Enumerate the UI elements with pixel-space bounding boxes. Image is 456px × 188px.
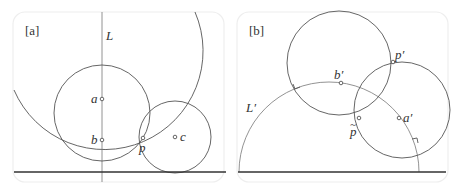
label-a: a — [91, 91, 98, 106]
point-a-prime — [397, 116, 401, 120]
label-b-prime: b′ — [334, 67, 344, 82]
panel-b-frame — [237, 12, 448, 182]
label-b: b — [91, 132, 98, 147]
panel-a-frame — [13, 12, 224, 182]
label-p-prime: p′ — [394, 47, 405, 62]
point-b — [100, 138, 104, 142]
point-c — [173, 135, 177, 139]
circle-a-prime — [354, 62, 450, 158]
semicircle-L-prime — [239, 82, 419, 172]
tilde-mark: ~ — [350, 118, 356, 130]
label-a-prime: a′ — [403, 110, 413, 125]
circle-b-prime — [287, 11, 391, 115]
panel-b-tag: [b] — [249, 23, 264, 38]
panel-b: [b] L′ b′ a′ p′ p ~ — [237, 11, 450, 182]
label-p: p — [138, 140, 146, 155]
panel-a-tag: [a] — [25, 23, 39, 38]
diagram-canvas: [a] L a b c p [b] L′ b′ a′ p′ p ~ — [0, 0, 456, 188]
label-c: c — [180, 129, 186, 144]
point-a — [100, 97, 104, 101]
label-L: L — [105, 28, 113, 43]
label-L-prime: L′ — [245, 100, 256, 115]
point-p-tilde — [357, 116, 361, 120]
panel-a: [a] L a b c p — [13, 12, 226, 182]
